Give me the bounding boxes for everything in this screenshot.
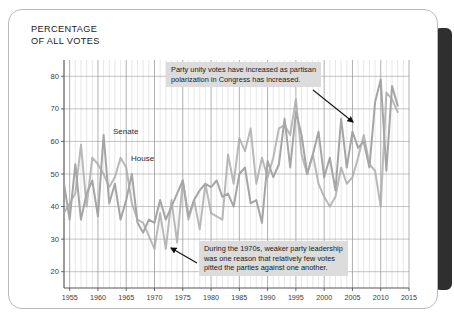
annotation-arrows	[9, 10, 438, 309]
arrow-top	[313, 90, 353, 122]
arrow-bottom	[171, 248, 197, 263]
figure-card: PERCENTAGE OF ALL VOTES 20304050607080 1…	[8, 9, 438, 309]
page-root: PERCENTAGE OF ALL VOTES 20304050607080 1…	[0, 0, 454, 318]
